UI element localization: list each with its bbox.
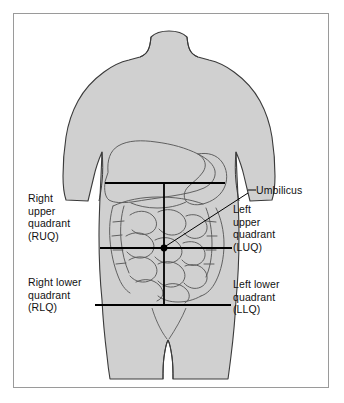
label-umbilicus: Umbilicus	[256, 184, 302, 197]
label-right-upper-quadrant: Right upper quadrant (RUQ)	[28, 192, 70, 242]
umbilicus-point	[161, 245, 168, 252]
label-left-upper-quadrant: Left upper quadrant (LUQ)	[233, 203, 275, 253]
label-left-lower-quadrant: Left lower quadrant (LLQ)	[233, 278, 280, 316]
label-right-lower-quadrant: Right lower quadrant (RLQ)	[28, 276, 82, 314]
abdominal-quadrants-figure: Right upper quadrant (RUQ) Right lower q…	[0, 0, 344, 403]
